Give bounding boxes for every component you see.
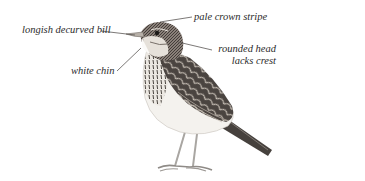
legs <box>158 132 212 171</box>
annotation-head-line2: lacks crest <box>212 55 276 66</box>
annotation-chin: white chin <box>71 65 114 76</box>
annotation-crown: pale crown stripe <box>194 11 267 22</box>
annotation-head-line1: rounded head <box>212 43 276 54</box>
annotation-bill: longish decurved bill <box>22 24 111 35</box>
leader-line-crown <box>160 17 192 22</box>
bird-diagram: longish decurved bill pale crown stripe … <box>0 0 365 181</box>
leader-line-chin <box>117 48 141 71</box>
eye <box>155 31 159 35</box>
